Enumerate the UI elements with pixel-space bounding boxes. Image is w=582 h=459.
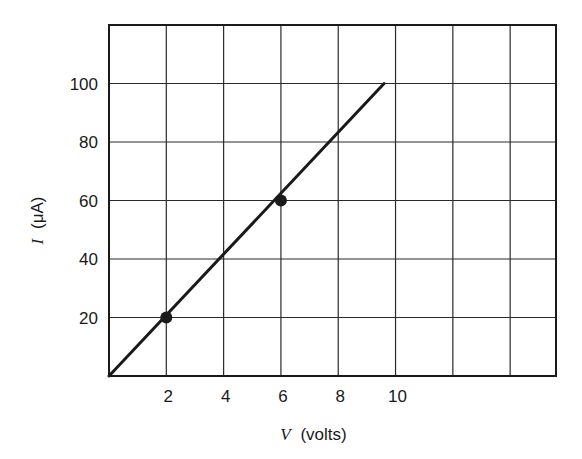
- fit-line: [109, 84, 384, 377]
- x-axis-tick-labels: 246810: [164, 387, 407, 406]
- y-tick-label: 80: [79, 133, 98, 152]
- x-axis-unit: (volts): [300, 425, 346, 444]
- y-tick-label: 100: [70, 75, 98, 94]
- grid: [109, 25, 556, 376]
- iv-chart: 246810 20406080100 V (volts) I (μA): [0, 0, 582, 459]
- data-point-marker: [275, 195, 287, 207]
- x-tick-label: 2: [164, 387, 173, 406]
- y-axis-tick-labels: 20406080100: [70, 75, 98, 328]
- x-axis-title: V (volts): [280, 425, 346, 444]
- x-axis-variable: V: [280, 425, 293, 444]
- y-tick-label: 60: [79, 192, 98, 211]
- data-point-marker: [160, 312, 172, 324]
- data-series: [109, 84, 384, 377]
- y-axis-unit: (μA): [28, 197, 47, 229]
- chart-canvas: 246810 20406080100 V (volts) I (μA): [0, 0, 582, 459]
- y-axis-title: I (μA): [28, 197, 47, 246]
- x-tick-label: 10: [388, 387, 407, 406]
- y-tick-label: 40: [79, 250, 98, 269]
- x-tick-label: 4: [221, 387, 230, 406]
- y-axis-variable: I: [28, 237, 47, 245]
- x-tick-label: 8: [335, 387, 344, 406]
- y-tick-label: 20: [79, 309, 98, 328]
- x-tick-label: 6: [278, 387, 287, 406]
